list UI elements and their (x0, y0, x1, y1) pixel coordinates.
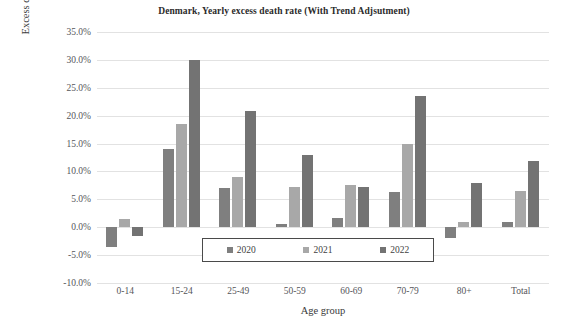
bar-2021-80+[interactable] (458, 222, 469, 228)
legend-label: 2021 (313, 245, 332, 255)
y-axis-label: Excess death rate, % (20, 0, 36, 76)
bar-2020-50-59[interactable] (276, 224, 287, 227)
bar-2022-80+[interactable] (471, 183, 482, 228)
bar-2022-15-24[interactable] (189, 60, 200, 227)
bar-2022-25-49[interactable] (245, 111, 256, 227)
legend-label: 2022 (390, 245, 409, 255)
bar-2020-80+[interactable] (445, 227, 456, 238)
bar-2020-0-14[interactable] (106, 227, 117, 247)
bar-2022-70-79[interactable] (415, 96, 426, 227)
y-axis-tick-label: -10.0% (63, 278, 91, 288)
bar-group (97, 32, 154, 283)
x-axis-tick-labels: 0-1415-2425-4950-5960-6970-7980+Total (97, 286, 549, 296)
bar-2020-60-69[interactable] (332, 218, 343, 227)
y-axis-tick-label: 35.0% (66, 27, 91, 37)
y-axis-tick-label: 25.0% (66, 83, 91, 93)
bar-2021-50-59[interactable] (289, 187, 300, 227)
x-axis-tick-label: 60-69 (323, 286, 380, 296)
legend-swatch-icon (380, 247, 386, 253)
y-axis-tick-label: 20.0% (66, 111, 91, 121)
x-axis-tick-label: 15-24 (154, 286, 211, 296)
legend-swatch-icon (227, 247, 233, 253)
bar-2022-60-69[interactable] (358, 187, 369, 228)
bar-2022-0-14[interactable] (132, 227, 143, 235)
bar-2021-0-14[interactable] (119, 219, 130, 227)
bar-2020-25-49[interactable] (219, 188, 230, 227)
chart-container: Denmark, Yearly excess death rate (With … (0, 0, 568, 330)
bar-2021-60-69[interactable] (345, 185, 356, 227)
y-axis-tick-label: 5.0% (71, 194, 91, 204)
x-axis-tick-label: 0-14 (97, 286, 154, 296)
bar-2020-15-24[interactable] (163, 149, 174, 227)
y-axis-tick-label: 30.0% (66, 55, 91, 65)
bar-2020-Total[interactable] (502, 222, 513, 228)
chart-legend: 202020212022 (202, 238, 434, 262)
x-axis-tick-label: Total (493, 286, 550, 296)
y-axis-tick-label: 10.0% (66, 166, 91, 176)
bar-2021-25-49[interactable] (232, 177, 243, 227)
bar-2021-Total[interactable] (515, 191, 526, 227)
bar-group (436, 32, 493, 283)
bar-2022-Total[interactable] (528, 161, 539, 227)
y-axis-tick-label: -5.0% (68, 250, 91, 260)
bar-2021-70-79[interactable] (402, 144, 413, 228)
x-axis-label: Age group (97, 305, 549, 316)
gridline: -10.0% (97, 283, 549, 284)
chart-title: Denmark, Yearly excess death rate (With … (0, 6, 568, 16)
bar-2022-50-59[interactable] (302, 155, 313, 228)
x-axis-tick-label: 80+ (436, 286, 493, 296)
legend-item-2021[interactable]: 2021 (303, 245, 332, 255)
x-axis-tick-label: 70-79 (380, 286, 437, 296)
legend-item-2020[interactable]: 2020 (227, 245, 256, 255)
y-axis-tick-label: 15.0% (66, 139, 91, 149)
bar-2020-70-79[interactable] (389, 192, 400, 227)
y-axis-tick-label: 0.0% (71, 222, 91, 232)
legend-label: 2020 (237, 245, 256, 255)
legend-swatch-icon (303, 247, 309, 253)
x-axis-tick-label: 25-49 (210, 286, 267, 296)
bar-group (493, 32, 550, 283)
legend-item-2022[interactable]: 2022 (380, 245, 409, 255)
x-axis-tick-label: 50-59 (267, 286, 324, 296)
bar-2021-15-24[interactable] (176, 124, 187, 227)
